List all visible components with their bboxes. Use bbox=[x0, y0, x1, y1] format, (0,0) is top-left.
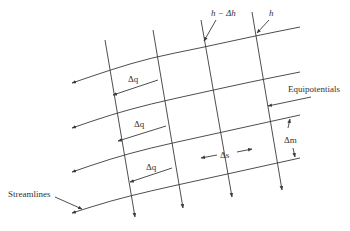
equipotential-2-arrow bbox=[153, 30, 183, 208]
streamline-4-arrow bbox=[72, 158, 300, 213]
leader-arrow bbox=[268, 97, 311, 106]
annotation-label: Equipotentials bbox=[288, 84, 340, 94]
equipotentials-group bbox=[105, 12, 282, 217]
annotations-group: h − ΔhhEquipotentialsStreamlines bbox=[8, 8, 340, 209]
dimension-label: Δq bbox=[128, 74, 139, 84]
dimension-arrow-4 bbox=[201, 155, 217, 158]
streamline-1-arrow bbox=[72, 27, 300, 83]
leader-arrow bbox=[204, 20, 216, 41]
dimension-label: Δs bbox=[220, 150, 230, 160]
dimension-arrow-7 bbox=[293, 148, 295, 157]
leader-arrow bbox=[55, 197, 82, 209]
dimension-label: Δq bbox=[146, 162, 157, 172]
annotation-label: h − Δh bbox=[211, 8, 236, 18]
equipotential-1-arrow bbox=[105, 40, 135, 217]
annotation-label: Streamlines bbox=[8, 189, 51, 199]
dimension-label: Δm bbox=[284, 135, 297, 145]
streamline-2-arrow bbox=[72, 72, 300, 128]
leader-arrow bbox=[257, 20, 269, 33]
dimension-arrows-group: ΔqΔqΔqΔsΔm bbox=[113, 74, 297, 182]
equipotential-3-arrow bbox=[201, 20, 232, 197]
flow-net-diagram: ΔqΔqΔqΔsΔm h − ΔhhEquipotentialsStreamli… bbox=[0, 0, 350, 231]
dimension-arrow-6 bbox=[288, 119, 290, 128]
streamline-3-arrow bbox=[72, 115, 300, 172]
streamlines-group bbox=[72, 27, 300, 213]
equipotential-4-arrow bbox=[252, 12, 282, 190]
dimension-label: Δq bbox=[134, 119, 145, 129]
annotation-label: h bbox=[269, 8, 274, 18]
dimension-arrow-5 bbox=[237, 149, 252, 152]
